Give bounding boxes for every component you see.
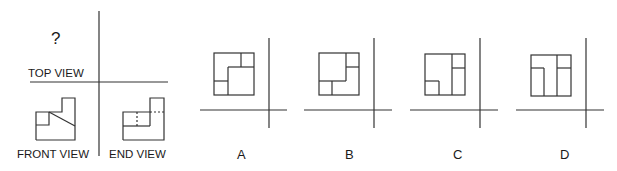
front-view-label: FRONT VIEW [17,148,89,160]
end-view-label: END VIEW [109,148,166,160]
front-view-drawing [36,98,75,140]
option-a-label[interactable]: A [237,147,246,162]
option-c-label[interactable]: C [453,147,462,162]
orthographic-projection-diagram: ? TOP VIEW FRONT VIEW END VIEW A B C D [0,0,617,171]
top-view-label: TOP VIEW [28,67,84,79]
option-b-label[interactable]: B [345,147,354,162]
option-d-drawing[interactable] [516,38,604,128]
end-view-drawing [123,98,164,140]
option-b-drawing[interactable] [304,38,392,128]
option-d-label[interactable]: D [560,147,569,162]
option-c-drawing[interactable] [410,38,498,128]
unknown-top-view-marker: ? [51,29,60,48]
option-a-drawing[interactable] [200,38,287,128]
